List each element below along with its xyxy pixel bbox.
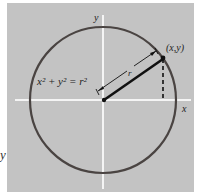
origin-point <box>102 98 106 102</box>
diagram-background <box>7 3 194 192</box>
stray-margin-glyph: y <box>0 147 6 163</box>
point-on-circle <box>161 56 166 61</box>
circle-equation-diagram: r (x,y) x² + y² = r² x y <box>0 0 202 195</box>
y-axis-label: y <box>93 12 99 23</box>
radius-label: r <box>128 68 132 78</box>
point-label: (x,y) <box>166 42 185 54</box>
equation-label: x² + y² = r² <box>36 75 87 87</box>
x-axis-label: x <box>181 103 187 114</box>
